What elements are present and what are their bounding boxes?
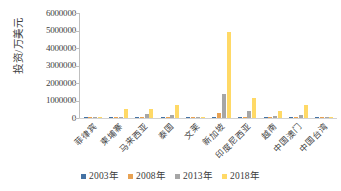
legend-label: 2013年 xyxy=(183,171,213,181)
legend-label: 2008年 xyxy=(136,171,166,181)
y-axis-tick-mark xyxy=(75,13,79,14)
legend-item[interactable]: 2013年 xyxy=(175,171,213,181)
chart-legend: 2003年2008年2013年2018年 xyxy=(0,171,341,181)
legend-item[interactable]: 2003年 xyxy=(81,171,119,181)
y-axis-tick-mark xyxy=(75,83,79,84)
legend-label: 2003年 xyxy=(89,171,119,181)
legend-item[interactable]: 2008年 xyxy=(128,171,166,181)
legend-item[interactable]: 2018年 xyxy=(222,171,260,181)
y-axis-tick-mark xyxy=(75,48,79,49)
legend-swatch-icon xyxy=(81,174,86,179)
x-axis-category-labels: 菲律宾柬埔寨马来西亚泰国文莱新加坡印度尼西亚越南中国澳门中国台湾 xyxy=(0,0,341,191)
legend-swatch-icon xyxy=(128,174,133,179)
legend-swatch-icon xyxy=(175,174,180,179)
y-axis-tick-mark xyxy=(75,101,79,102)
legend-swatch-icon xyxy=(222,174,227,179)
y-axis-tick-mark xyxy=(75,66,79,67)
y-axis-tick-mark xyxy=(75,118,79,119)
legend-label: 2018年 xyxy=(230,171,260,181)
bar-chart: 投资/万美元 600000050000004000000300000020000… xyxy=(0,0,341,191)
y-axis-tick-mark xyxy=(75,31,79,32)
